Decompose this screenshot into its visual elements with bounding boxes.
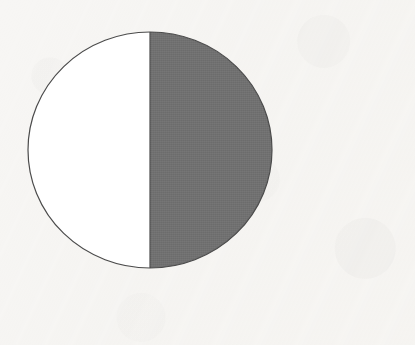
circle-diagram-svg: Circle divided into two equal halves, on… xyxy=(0,0,415,345)
circle-half-right-shaded xyxy=(150,32,272,268)
figure-canvas: Circle divided into two equal halves, on… xyxy=(0,0,415,345)
circle-half-left-unshaded xyxy=(28,32,150,268)
half-shaded-circle-figure: Circle divided into two equal halves, on… xyxy=(0,0,415,345)
